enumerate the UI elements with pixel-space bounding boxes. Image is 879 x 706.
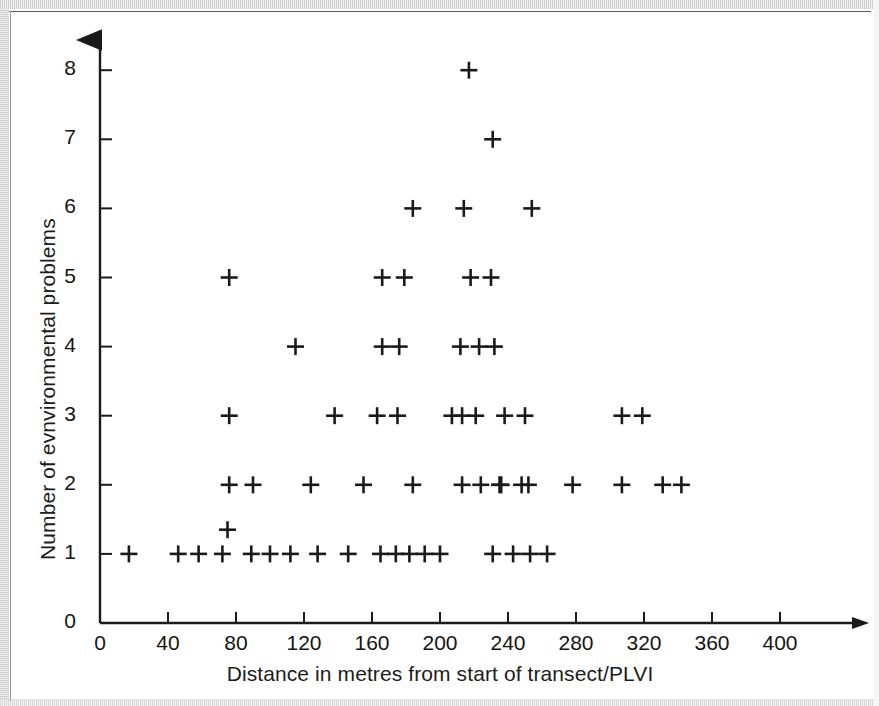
data-point-marker [523,200,540,217]
data-point-marker [564,476,581,493]
data-point-marker [374,338,391,355]
data-point-marker [493,476,510,493]
data-point-marker [404,200,421,217]
data-point-marker [214,545,231,562]
data-point-marker [221,269,238,286]
data-point-marker [262,545,279,562]
data-point-marker [404,476,421,493]
data-point-marker [471,338,488,355]
x-tick-label: 80 [206,631,266,655]
x-tick-label: 240 [478,631,538,655]
data-point-marker [355,476,372,493]
data-point-marker [613,407,630,424]
x-tick-label: 280 [546,631,606,655]
x-tick-label: 360 [682,631,742,655]
data-point-marker [517,407,534,424]
data-point-marker [282,545,299,562]
data-point-marker [484,131,501,148]
y-tick-label: 7 [54,125,86,149]
data-point-marker [190,545,207,562]
y-tick-label: 0 [54,609,86,633]
x-axis-title: Distance in metres from start of transec… [120,662,760,686]
data-point-marker [486,338,503,355]
data-point-marker [462,269,479,286]
data-point-marker [467,407,484,424]
data-point-marker [369,407,386,424]
data-point-marker [522,545,539,562]
x-tick-label: 40 [138,631,198,655]
data-point-marker [454,476,471,493]
data-point-marker [673,476,690,493]
data-point-marker [472,476,489,493]
data-point-marker [401,545,418,562]
data-point-marker [455,200,472,217]
data-point-marker [374,269,391,286]
y-axis-title: Number of evnvironmental problems [36,218,60,560]
y-tick-label: 6 [54,194,86,218]
x-tick-label: 0 [70,631,130,655]
data-point-marker [654,476,671,493]
data-point-markers [120,62,690,563]
data-point-marker [452,338,469,355]
data-point-marker [287,338,304,355]
data-point-marker [302,476,319,493]
x-tick-label: 160 [342,631,402,655]
data-point-marker [496,407,513,424]
data-point-marker [170,545,187,562]
x-tick-label: 120 [274,631,334,655]
scanned-figure-page: 04080120160200240280320360400012345678 N… [0,0,879,706]
data-point-marker [484,545,501,562]
y-tick-label: 8 [54,56,86,80]
data-point-marker [391,338,408,355]
x-tick-label: 200 [410,631,470,655]
axis-tick-marks [100,70,780,623]
x-tick-label: 400 [750,631,810,655]
data-point-marker [372,545,389,562]
x-tick-label: 320 [614,631,674,655]
data-point-marker [340,545,357,562]
data-point-marker [243,545,260,562]
x-axis-arrow-icon [852,617,869,629]
data-point-marker [221,476,238,493]
data-point-marker [326,407,343,424]
scatter-plot [0,0,879,706]
data-point-marker [416,545,433,562]
data-point-marker [396,269,413,286]
data-point-marker [539,545,556,562]
data-point-marker [460,62,477,79]
data-point-marker [219,521,236,538]
data-point-marker [483,269,500,286]
data-point-marker [613,476,630,493]
axis-lines [100,40,869,629]
data-point-marker [505,545,522,562]
data-point-marker [432,545,449,562]
data-point-marker [634,407,651,424]
data-point-marker [245,476,262,493]
data-point-marker [120,545,137,562]
data-point-marker [389,407,406,424]
data-point-marker [221,407,238,424]
data-point-marker [309,545,326,562]
